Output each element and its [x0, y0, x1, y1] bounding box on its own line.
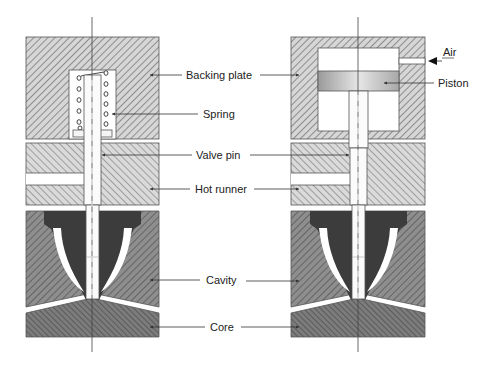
left-panel-spring-actuated	[26, 17, 159, 352]
right-panel-piston-actuated	[291, 17, 425, 352]
label-piston: Piston	[438, 77, 469, 89]
left-core	[26, 298, 159, 337]
label-backing-plate: Backing plate	[186, 69, 252, 81]
label-hot-runner: Hot runner	[195, 183, 247, 195]
label-valve-pin: Valve pin	[196, 149, 240, 161]
label-spring: Spring	[203, 108, 235, 120]
left-valve-pin	[84, 75, 101, 299]
label-core: Core	[210, 321, 234, 333]
label-cavity: Cavity	[206, 274, 237, 286]
piston	[318, 71, 399, 91]
valve-gate-diagram: Backing plate Spring Valve pin Hot runne…	[0, 0, 498, 368]
label-air: Air	[443, 46, 457, 58]
